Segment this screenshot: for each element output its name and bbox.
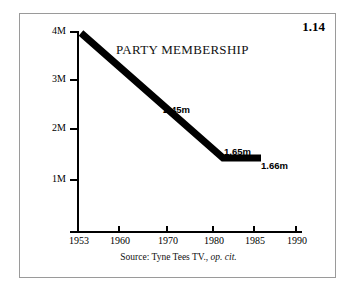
data-label-2-45m: 2.45m: [163, 104, 190, 115]
data-label-1-65m: 1.65m: [224, 146, 251, 157]
figure-frame: 1.14 4M 3M 2M 1M 1953 1960 1970 1980 19: [19, 13, 336, 278]
data-label-1-66m: 1.66m: [261, 160, 288, 171]
source-caption: Source: Tyne Tees TV., op. cit.: [20, 252, 337, 262]
figure-page: 1.14 4M 3M 2M 1M 1953 1960 1970 1980 19: [0, 0, 354, 287]
chart-title: PARTY MEMBERSHIP: [116, 42, 249, 58]
source-text: Source: Tyne Tees TV.,: [120, 252, 208, 262]
source-citation: op. cit.: [211, 252, 237, 262]
plot-area: 4M 3M 2M 1M 1953 1960 1970 1980 1985 199…: [20, 14, 337, 279]
